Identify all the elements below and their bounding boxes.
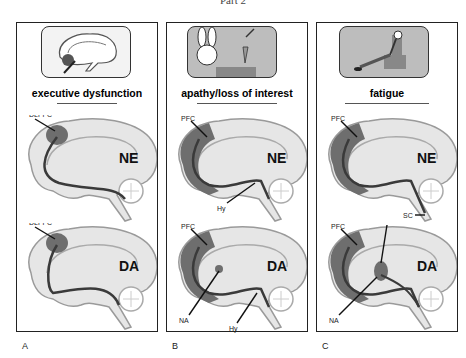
da-brain-diagram: PFC S NA DA bbox=[319, 223, 457, 333]
divider bbox=[197, 103, 277, 104]
svg-text:PFC: PFC bbox=[181, 115, 195, 122]
svg-text:DLPFC: DLPFC bbox=[29, 223, 52, 226]
panel-heading: fatigue bbox=[317, 87, 457, 99]
brain-sagittal-icon bbox=[42, 27, 130, 77]
tired-person-icon bbox=[340, 27, 428, 77]
da-brain-diagram: PFC NA Hy DA bbox=[169, 223, 307, 333]
svg-text:NE: NE bbox=[119, 150, 138, 166]
da-brain-diagram: DLPFC DA bbox=[19, 223, 157, 333]
svg-text:DA: DA bbox=[267, 258, 287, 274]
svg-text:DA: DA bbox=[417, 258, 437, 274]
rabbit-picture bbox=[187, 26, 277, 78]
svg-text:PFC: PFC bbox=[331, 115, 345, 122]
svg-text:NE: NE bbox=[267, 150, 286, 166]
svg-text:NA: NA bbox=[329, 317, 339, 324]
svg-text:NA: NA bbox=[179, 317, 189, 324]
svg-text:SC: SC bbox=[403, 212, 413, 219]
svg-text:DA: DA bbox=[119, 258, 139, 274]
brain-picture bbox=[41, 26, 131, 78]
panel-c: fatigue PFC SC NE PFC S NA DA bbox=[316, 22, 458, 332]
divider bbox=[345, 103, 429, 104]
fatigue-picture bbox=[339, 26, 429, 78]
panel-heading: executive dysfunction bbox=[17, 87, 157, 99]
svg-text:PFC: PFC bbox=[331, 223, 345, 230]
svg-text:S: S bbox=[385, 223, 390, 224]
svg-text:Hy: Hy bbox=[217, 205, 226, 213]
panel-letter-c: C bbox=[322, 341, 329, 351]
divider bbox=[57, 103, 117, 104]
svg-text:Hy: Hy bbox=[229, 325, 238, 333]
ne-brain-diagram: PFC SC NE bbox=[319, 115, 457, 225]
ne-brain-diagram: PFC Hy NE bbox=[169, 115, 307, 225]
panel-b: apathy/loss of interest PFC Hy NE PFC NA… bbox=[166, 22, 308, 332]
panel-letter-a: A bbox=[22, 341, 28, 351]
svg-text:NE: NE bbox=[417, 150, 436, 166]
panel-heading: apathy/loss of interest bbox=[167, 87, 307, 99]
panel-letter-b: B bbox=[172, 341, 178, 351]
panel-a: executive dysfunction DLPFC NE DLPFC DA bbox=[16, 22, 158, 332]
figure-title: Part 2 bbox=[0, 0, 466, 6]
bored-rabbit-icon bbox=[188, 27, 276, 77]
svg-text:DLPFC: DLPFC bbox=[29, 115, 52, 118]
ne-brain-diagram: DLPFC NE bbox=[19, 115, 157, 225]
svg-text:PFC: PFC bbox=[181, 223, 195, 230]
